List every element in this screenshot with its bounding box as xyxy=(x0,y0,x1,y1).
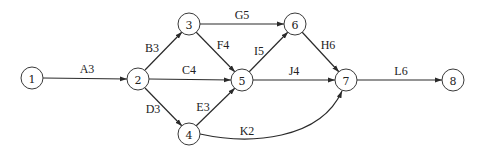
node-label: 6 xyxy=(292,19,299,32)
edge-label-j: J4 xyxy=(289,64,300,78)
edge-label-f: F4 xyxy=(217,38,230,52)
edge-label-b: B3 xyxy=(145,41,159,55)
node-label: 2 xyxy=(135,74,142,87)
node-label: 7 xyxy=(343,75,350,88)
node-6: 6 xyxy=(284,13,306,35)
node-3: 3 xyxy=(178,13,200,35)
edge-label-h: H6 xyxy=(321,38,336,52)
edge-k xyxy=(200,91,342,139)
edge-label-g: G5 xyxy=(235,8,250,22)
node-7: 7 xyxy=(335,69,357,91)
node-label: 1 xyxy=(29,73,36,86)
edge-label-c: C4 xyxy=(182,63,196,77)
node-1: 1 xyxy=(21,67,43,89)
node-label: 3 xyxy=(186,19,193,32)
edge-label-l: L6 xyxy=(394,64,407,78)
node-5: 5 xyxy=(231,69,253,91)
edge-label-d: D3 xyxy=(146,102,161,116)
edge-label-i: I5 xyxy=(254,44,264,58)
edge-label-a: A3 xyxy=(80,62,95,76)
node-4: 4 xyxy=(178,123,200,145)
edge-label-e: E3 xyxy=(196,100,209,114)
node-label: 8 xyxy=(450,75,457,88)
edge-a xyxy=(43,78,127,79)
edge-c xyxy=(149,79,231,80)
node-8: 8 xyxy=(442,69,464,91)
network-diagram: A3 B3 C4 D3 E3 F4 G5 H6 I5 J4 K2 L6 1 2 … xyxy=(0,0,479,153)
node-label: 5 xyxy=(239,75,246,88)
edge-label-k: K2 xyxy=(240,124,255,138)
node-2: 2 xyxy=(127,68,149,90)
node-label: 4 xyxy=(186,129,193,142)
